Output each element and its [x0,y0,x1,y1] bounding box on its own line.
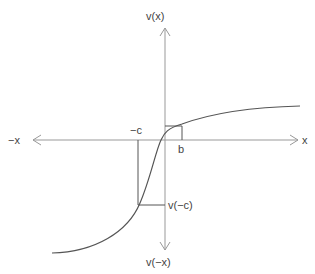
neg-c-label: −c [130,124,142,136]
v-neg-c-label: v(−c) [168,199,193,211]
value-function-curve [52,106,300,253]
neg-c-guides [138,140,165,205]
x-axis-positive-label: x [302,134,308,146]
y-axis-positive-label: v(x) [146,10,164,22]
x-axis-negative-label: −x [8,134,20,146]
value-function-diagram: v(x) v(−x) −x x −c b v(−c) [0,0,315,274]
b-label: b [178,143,184,155]
b-guides [165,126,182,140]
y-axis-negative-label: v(−x) [146,256,171,268]
